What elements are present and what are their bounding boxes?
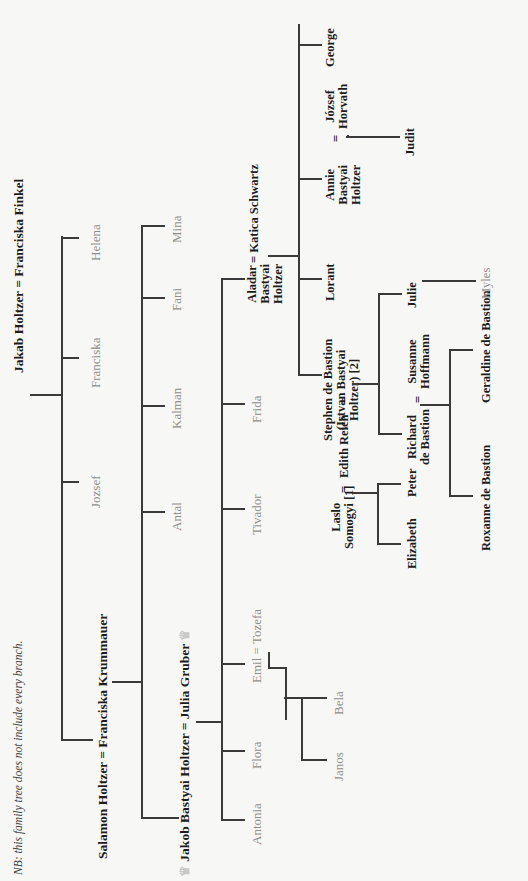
person-jozsef-horvath: József Horvath — [324, 84, 350, 129]
connector-line — [285, 667, 287, 720]
person-myles: Myles — [480, 268, 493, 299]
person-franciska-krummauer: Franciska Krummauer — [95, 614, 110, 748]
connector-line — [298, 374, 322, 376]
marriage-symbol: = — [249, 647, 264, 654]
connector-line — [141, 225, 165, 227]
person-george: George — [324, 28, 337, 67]
connector-line — [268, 667, 286, 669]
person-emil: Emil — [249, 658, 264, 683]
person-susanne-hoffmann: Susanne Hoffmann — [406, 334, 432, 389]
person-jozsef: Jozsef — [89, 476, 103, 509]
connector-line — [221, 278, 245, 280]
person-geraldine-de-bastion: Geraldine de Bastion — [480, 290, 493, 403]
connector-line — [61, 357, 79, 359]
founding-couple: Jakab Holtzer = Franciska Finkel — [12, 179, 26, 373]
person-annie-bastyai-holtzer: Annie Bastyai Holtzer — [324, 165, 363, 205]
person-mina: Mina — [170, 216, 184, 243]
person-lorant: Lorant — [324, 264, 337, 302]
person-tivador: Tivador — [250, 494, 264, 535]
sibling-bar — [449, 349, 451, 497]
person-kalman: Kalman — [170, 388, 184, 429]
connector-line — [449, 349, 473, 351]
connector-line — [449, 495, 473, 497]
couple-salamon: Salamon Holtzer = Franciska Krummauer — [96, 614, 110, 859]
person-fani: Fani — [170, 288, 184, 311]
person-bela: Bela — [332, 691, 346, 715]
person-flora: Flora — [250, 742, 264, 769]
connector-line — [284, 697, 302, 699]
person-roxanne-de-bastion: Roxanne de Bastion — [480, 445, 493, 551]
connector-line — [61, 481, 79, 483]
connector-line — [420, 404, 450, 406]
connector-line — [141, 511, 165, 513]
connector-line — [30, 394, 63, 396]
person-aladar: Aladar Bastyai Holtzer — [246, 264, 285, 304]
connector-line — [141, 297, 165, 299]
couple-emil: Emil = Tozefa — [250, 609, 264, 683]
person-antal: Antal — [170, 502, 184, 531]
connector-line — [377, 483, 401, 485]
connector-line — [377, 543, 401, 545]
marriage-symbol: = — [412, 396, 425, 403]
sibling-bar — [141, 225, 143, 819]
person-franciska: Franciska — [89, 337, 103, 388]
person-peter: Peter — [406, 469, 419, 497]
family-tree-canvas: NB: this family tree does not include ev… — [0, 0, 528, 881]
sibling-bar — [298, 24, 300, 376]
connector-line — [141, 405, 165, 407]
connector-line — [196, 721, 223, 723]
connector-line — [346, 136, 400, 138]
connector-line — [221, 819, 245, 821]
marriage-symbol: = — [330, 135, 343, 142]
sibling-bar — [301, 697, 303, 761]
connector-line — [298, 278, 322, 280]
connector-line — [352, 492, 378, 494]
crown-icon: ♛ — [177, 629, 192, 641]
marriage-symbol: = — [338, 397, 351, 404]
connector-line — [221, 750, 245, 752]
person-helena: Helena — [89, 224, 103, 261]
person-frida: Frida — [250, 396, 264, 423]
person-julia-gruber: Julia Gruber — [177, 644, 192, 719]
connector-line — [112, 681, 143, 683]
sibling-bar — [377, 483, 379, 545]
person-richard-de-bastion: Richard de Bastion — [406, 409, 432, 465]
connector-line — [141, 817, 179, 819]
sibling-bar — [378, 293, 380, 435]
person-judit: Judit — [404, 128, 417, 156]
person-laslo-somogyi: Laslo Somogyi [1] — [330, 485, 356, 549]
person-katica-schwartz: Katica Schwartz — [247, 164, 261, 253]
connector-line — [301, 697, 327, 699]
marriage-symbol: = — [247, 256, 261, 263]
connector-line — [61, 739, 93, 741]
connector-line — [61, 237, 79, 239]
marriage-symbol: = — [177, 723, 192, 731]
person-jakob-bastyai-holtzer: Jakob Bastyai Holtzer — [177, 734, 192, 862]
person-salamon: Salamon Holtzer — [95, 762, 110, 859]
connector-line — [221, 508, 245, 510]
connector-line — [298, 178, 322, 180]
connector-line — [298, 44, 322, 46]
person-antonia: Antonia — [250, 803, 264, 845]
marriage-symbol: = — [338, 486, 351, 493]
sibling-bar — [61, 236, 63, 741]
connector-line — [422, 280, 476, 282]
person-julie: Julie — [406, 282, 419, 308]
crown-icon: ♛ — [177, 865, 192, 877]
connector-line — [378, 293, 402, 295]
person-tozefa: Tozefa — [249, 609, 264, 644]
person-edith-reich: Edith Reich — [338, 414, 351, 478]
connector-line — [378, 433, 402, 435]
couple-jakob: ♛ Jakob Bastyai Holtzer = Julia Gruber ♛ — [178, 629, 192, 877]
connector-line — [352, 383, 380, 385]
connector-line — [301, 759, 327, 761]
person-janos: Janos — [332, 752, 346, 781]
connector-line — [221, 663, 245, 665]
marriage-symbol: = — [95, 751, 110, 759]
sibling-bar — [221, 278, 223, 821]
person-elizabeth: Elizabeth — [406, 518, 419, 569]
disclaimer-note: NB: this family tree does not include ev… — [12, 641, 24, 875]
couple-aladar-katica: = Katica Schwartz — [248, 164, 261, 263]
connector-line — [221, 403, 245, 405]
connector-line — [268, 255, 300, 257]
